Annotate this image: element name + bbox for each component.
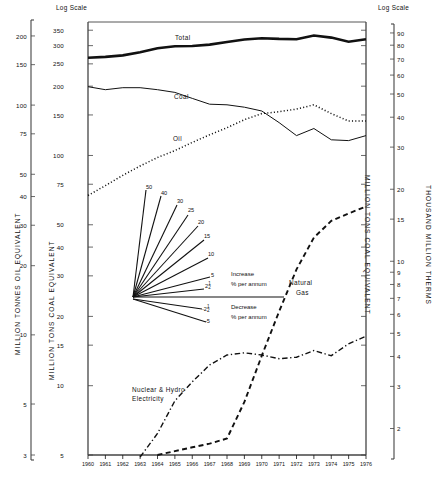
fan-ray-increase xyxy=(133,240,204,297)
year-tick-label: 1969 xyxy=(237,461,252,467)
series-coal xyxy=(88,87,366,141)
year-tick-label: 1968 xyxy=(220,461,235,467)
year-tick-label: 1963 xyxy=(133,461,148,467)
year-tick-label: 1961 xyxy=(98,461,113,467)
year-tick-label: 1973 xyxy=(306,461,321,467)
year-tick-label: 1971 xyxy=(272,461,287,467)
data-series-layer xyxy=(0,0,444,480)
fan-ray-increase xyxy=(133,289,204,297)
year-tick-label: 1966 xyxy=(185,461,200,467)
fan-ray-decrease xyxy=(133,299,202,309)
year-tick-label: 1976 xyxy=(359,461,374,467)
year-tick-label: 1972 xyxy=(289,461,304,467)
series-natural-gas xyxy=(158,207,367,455)
year-tick-label: 1975 xyxy=(341,461,356,467)
series-total xyxy=(88,36,366,58)
year-tick-label: 1970 xyxy=(254,461,269,467)
year-tick-label: 1965 xyxy=(167,461,182,467)
year-tick-label: 1974 xyxy=(324,461,339,467)
year-tick-label: 1960 xyxy=(81,461,96,467)
year-tick-label: 1964 xyxy=(150,461,165,467)
year-tick-label: 1967 xyxy=(202,461,217,467)
chart-root: Log Scale Log Scale MILLION TONNES OIL E… xyxy=(0,0,444,480)
fan-ray-increase xyxy=(133,258,208,297)
series-nuclear-hydro-electricity xyxy=(140,336,366,457)
fan-ray-decrease xyxy=(133,299,206,322)
series-oil xyxy=(88,105,366,196)
year-tick-label: 1962 xyxy=(115,461,130,467)
